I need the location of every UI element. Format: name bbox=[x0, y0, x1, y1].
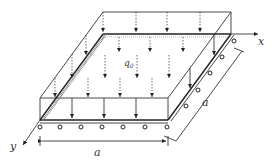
dimension-bottom-label: a bbox=[94, 146, 101, 159]
dimension-bottom bbox=[40, 136, 168, 146]
y-axis-label: y bbox=[9, 140, 17, 153]
dimension-right bbox=[164, 48, 244, 141]
load-label: q0 bbox=[124, 58, 134, 69]
y-axis bbox=[23, 120, 40, 145]
x-axis-label: x bbox=[258, 35, 265, 48]
dimension-right-label: a bbox=[202, 96, 209, 109]
rollers bbox=[38, 39, 236, 129]
plate-diagram: x y q0 a a bbox=[0, 0, 276, 160]
